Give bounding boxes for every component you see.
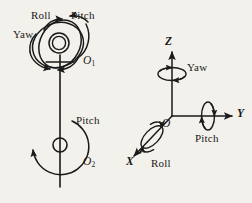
- pitch-rotation-arrow-bottom: [202, 117, 205, 128]
- pitch-rotation-arrow-top: [211, 104, 214, 116]
- label-yaw-left: Yaw: [13, 29, 33, 40]
- gimbal-assembly-group: [26, 13, 91, 187]
- label-origin-1-subscript: 1: [92, 59, 96, 68]
- label-origin-2-subscript: 2: [92, 160, 96, 169]
- roll-rotation-arrow-b: [141, 143, 154, 155]
- label-origin-o: O: [162, 118, 171, 130]
- label-roll-top: Roll: [31, 10, 51, 21]
- label-axis-y: Y: [237, 108, 244, 120]
- label-roll-right: Roll: [151, 158, 171, 169]
- yaw-rotation-arrow-left: [160, 68, 172, 71]
- label-origin-2-letter: O: [83, 155, 92, 167]
- diagram-vector-layer: [0, 0, 252, 203]
- gimbal-hub-ring: [52, 36, 65, 49]
- label-axis-x: X: [126, 156, 134, 168]
- label-axis-z: Z: [165, 36, 172, 48]
- label-pitch-top: Pitch: [71, 10, 95, 21]
- label-pitch-right: Pitch: [195, 133, 219, 144]
- lower-pitch-arc: [33, 121, 89, 175]
- roll-rotation-arrow-a: [150, 119, 163, 131]
- label-pitch-bottom: Pitch: [76, 115, 100, 126]
- label-origin-2: O2: [83, 156, 95, 168]
- label-origin-1-letter: O: [83, 54, 92, 66]
- label-yaw-right: Yaw: [187, 62, 207, 73]
- label-origin-1: O1: [83, 55, 95, 67]
- yaw-rotation-arrow-right: [173, 77, 184, 80]
- figure-canvas: Roll Pitch Yaw O1 Pitch O2 Z Yaw Y O Pit…: [0, 0, 252, 203]
